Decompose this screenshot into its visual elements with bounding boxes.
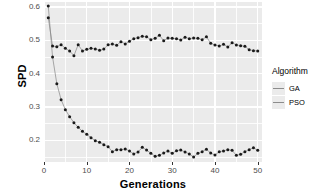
chart-figure: SPD 0.20.30.40.50.6 01020304050 Generati… xyxy=(0,0,326,196)
legend-item-ga[interactable]: GA xyxy=(272,81,326,95)
data-point xyxy=(154,37,157,40)
data-point xyxy=(51,56,54,59)
data-point xyxy=(201,150,204,153)
data-point xyxy=(149,38,152,41)
data-point xyxy=(119,40,122,43)
data-point xyxy=(188,153,191,156)
data-point xyxy=(192,156,195,159)
data-point xyxy=(231,149,234,152)
data-point xyxy=(55,45,58,48)
data-point xyxy=(222,43,225,46)
data-point xyxy=(111,43,114,46)
data-point xyxy=(209,42,212,45)
data-point xyxy=(179,39,182,42)
data-point xyxy=(201,38,204,41)
data-point xyxy=(196,152,199,155)
data-point xyxy=(226,46,229,49)
data-point xyxy=(137,151,140,154)
data-point xyxy=(184,151,187,154)
data-point xyxy=(175,37,178,40)
data-point xyxy=(132,153,135,156)
data-point xyxy=(205,35,208,38)
data-point xyxy=(213,154,216,157)
data-point xyxy=(60,43,63,46)
data-point xyxy=(158,154,161,157)
data-series-layer xyxy=(44,2,262,162)
x-tick-mark xyxy=(44,162,45,165)
x-tick-label: 40 xyxy=(203,166,227,175)
data-point xyxy=(184,36,187,39)
data-point xyxy=(171,37,174,40)
data-point xyxy=(68,50,71,53)
data-point xyxy=(72,54,75,57)
legend-label: GA xyxy=(289,84,300,93)
data-point xyxy=(132,37,135,40)
data-point xyxy=(179,149,182,152)
plot-panel xyxy=(44,2,262,162)
data-point xyxy=(94,139,97,142)
data-point xyxy=(149,152,152,155)
data-point xyxy=(226,148,229,151)
data-point xyxy=(175,149,178,152)
data-point xyxy=(166,150,169,153)
data-point xyxy=(209,152,212,155)
data-point xyxy=(111,150,114,153)
data-point xyxy=(51,45,54,48)
data-point xyxy=(119,148,122,151)
y-tick-label: 0.5 xyxy=(16,36,40,44)
data-point xyxy=(166,37,169,40)
legend-label: PSO xyxy=(289,98,305,107)
data-point xyxy=(205,148,208,151)
legend-key-swatch xyxy=(272,96,285,109)
data-point xyxy=(162,39,165,42)
data-point xyxy=(81,50,84,53)
x-tick-mark xyxy=(215,162,216,165)
data-point xyxy=(90,136,93,139)
data-point xyxy=(102,143,105,146)
data-point xyxy=(85,133,88,136)
data-point xyxy=(239,153,242,156)
data-point xyxy=(68,115,71,118)
x-tick-label: 0 xyxy=(32,166,56,175)
data-point xyxy=(256,149,259,152)
data-point xyxy=(81,130,84,133)
data-point xyxy=(77,126,80,129)
data-point xyxy=(47,16,50,19)
legend-title: Algorithm xyxy=(272,66,326,76)
data-point xyxy=(98,49,101,52)
x-tick-mark xyxy=(258,162,259,165)
data-point xyxy=(77,43,80,46)
data-point xyxy=(154,155,157,158)
data-point xyxy=(115,148,118,151)
legend-item-pso[interactable]: PSO xyxy=(272,95,326,109)
x-tick-label: 10 xyxy=(75,166,99,175)
x-tick-mark xyxy=(87,162,88,165)
data-point xyxy=(239,44,242,47)
data-point xyxy=(231,41,234,44)
data-point xyxy=(235,154,238,157)
legend: Algorithm GAPSO xyxy=(272,66,326,109)
legend-key-swatch xyxy=(272,82,285,95)
data-point xyxy=(47,5,50,8)
x-tick-mark xyxy=(172,162,173,165)
data-point xyxy=(107,43,110,46)
data-point xyxy=(115,44,118,47)
data-point xyxy=(124,148,127,151)
x-tick-mark xyxy=(129,162,130,165)
data-point xyxy=(60,98,63,101)
data-point xyxy=(141,35,144,38)
data-point xyxy=(218,150,221,153)
series-line-ga xyxy=(48,18,257,56)
data-point xyxy=(252,146,255,149)
data-point xyxy=(137,36,140,39)
data-point xyxy=(192,37,195,40)
data-point xyxy=(218,45,221,48)
data-point xyxy=(128,40,131,43)
data-point xyxy=(128,150,131,153)
data-point xyxy=(252,49,255,52)
data-point xyxy=(145,149,148,152)
x-tick-label: 50 xyxy=(246,166,270,175)
x-tick-label: 30 xyxy=(160,166,184,175)
data-point xyxy=(243,150,246,153)
data-point xyxy=(90,47,93,50)
